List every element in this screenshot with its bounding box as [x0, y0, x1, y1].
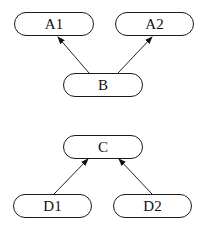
node-a2: A2: [115, 12, 194, 36]
node-c: C: [63, 135, 143, 159]
edge-d1-to-c: [54, 159, 88, 194]
node-b: B: [63, 73, 143, 97]
edge-d2-to-c: [119, 159, 152, 194]
node-label: D1: [43, 198, 61, 215]
node-label: D2: [143, 198, 161, 215]
node-label: C: [98, 139, 108, 156]
edge-b-to-a2: [118, 37, 152, 73]
node-a1: A1: [14, 12, 94, 36]
node-d2: D2: [113, 194, 192, 218]
node-label: B: [98, 77, 108, 94]
node-d1: D1: [13, 194, 92, 218]
node-label: A2: [145, 16, 163, 33]
node-label: A1: [45, 16, 63, 33]
edge-b-to-a1: [58, 37, 89, 73]
